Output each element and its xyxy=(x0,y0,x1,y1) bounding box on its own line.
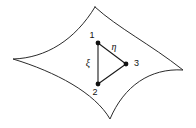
figure-canvas: 1 2 3 η ξ xyxy=(0,0,196,128)
element-edge-3-2 xyxy=(98,64,126,84)
node-label-2: 2 xyxy=(92,87,97,97)
axis-label-eta: η xyxy=(112,41,117,52)
axis-label-xi: ξ xyxy=(86,57,91,69)
node-label-3: 3 xyxy=(134,58,139,68)
node-dot-3 xyxy=(124,62,129,67)
diagram-svg: 1 2 3 η ξ xyxy=(0,0,196,128)
node-label-1: 1 xyxy=(89,30,94,40)
node-dot-1 xyxy=(96,41,101,46)
node-dot-2 xyxy=(96,82,101,87)
